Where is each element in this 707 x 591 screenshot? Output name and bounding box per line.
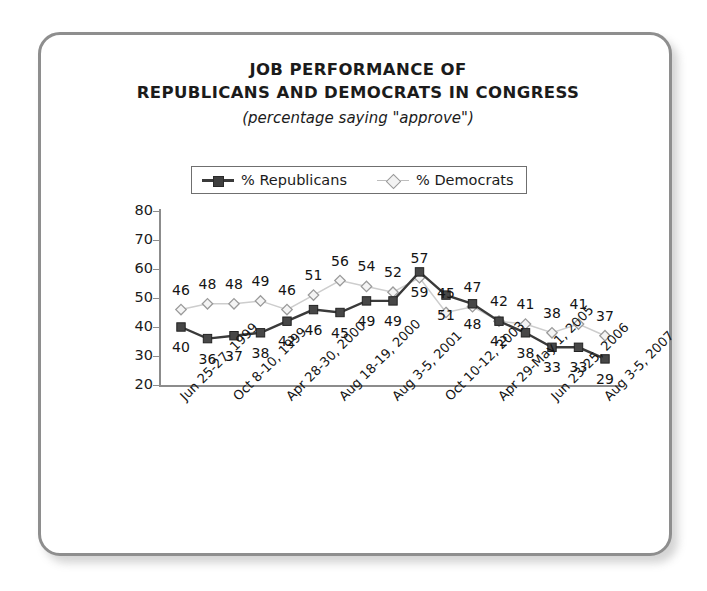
x-axis-labels: Jun 25-27, 1999Oct 8-10, 1999Apr 28-30, … [41,35,675,559]
chart-area: JOB PERFORMANCE OF REPUBLICANS AND DEMOC… [41,35,675,559]
y-tick-50 [153,298,160,299]
y-tick-20 [153,385,160,386]
y-tick-70 [153,240,160,241]
chart-frame: JOB PERFORMANCE OF REPUBLICANS AND DEMOC… [38,32,672,556]
y-tick-30 [153,356,160,357]
y-tick-40 [153,327,160,328]
x-tick-label-6: Apr 29-May 1, 2005 [495,302,596,403]
y-tick-60 [153,269,160,270]
y-tick-80 [153,211,160,212]
